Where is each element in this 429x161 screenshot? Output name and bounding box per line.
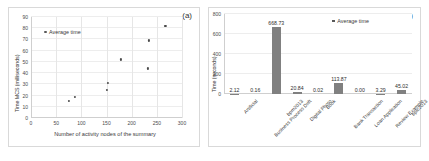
bar-slot: 668.73: [266, 14, 287, 94]
scatter-point: [68, 100, 70, 102]
gridline-vertical: [81, 17, 82, 118]
scatter-point: [74, 96, 76, 98]
y-tick-label: 50: [19, 59, 28, 65]
y-tick-label: 0: [211, 91, 221, 97]
y-tick-label: 80: [19, 25, 28, 31]
panel-a-legend-label: Average time: [49, 29, 81, 35]
bar: [272, 27, 281, 94]
bar-value-label: 45.02: [395, 83, 408, 89]
gridline-vertical: [157, 17, 158, 118]
x-tick-label: 250: [153, 120, 161, 126]
bar-slot: 113.87: [328, 14, 349, 94]
x-tick-label: 0: [30, 120, 33, 126]
x-tick-label: 200: [127, 120, 135, 126]
y-tick-label: 800: [211, 11, 221, 17]
gridline-vertical: [182, 17, 183, 118]
bar-slot: 3.29: [370, 14, 391, 94]
bar-slot: 45.02: [391, 14, 412, 94]
bar-slot: 0.00: [349, 14, 370, 94]
bar-value-label: 0.00: [355, 87, 365, 93]
scatter-point: [148, 39, 150, 41]
y-tick-label: 40: [19, 70, 28, 76]
y-axis-line: [31, 17, 32, 118]
bar-value-label: 20.84: [291, 85, 304, 91]
y-tick-label: 200: [211, 71, 221, 77]
gridline-vertical: [107, 17, 108, 118]
legend-marker-icon: [332, 20, 335, 23]
bar: [293, 92, 302, 94]
y-tick-label: 10: [19, 104, 28, 110]
x-tick-label: 50: [53, 120, 59, 126]
bar-slot: 2.12: [224, 14, 245, 94]
y-tick-label: 0: [19, 115, 28, 121]
panel-a-legend: Average time: [44, 29, 81, 35]
panel-a-x-axis-title: Number of activity nodes of the summary: [30, 131, 180, 137]
chart-panel-a: (a) Time MCS (milliseconds) Number of ac…: [0, 0, 206, 161]
panel-b-legend: Average time: [332, 18, 369, 24]
panel-b-legend-label: Average time: [337, 18, 369, 24]
scatter-point: [147, 68, 149, 70]
gridline-vertical: [132, 17, 133, 118]
bar-value-label: 0.02: [313, 87, 323, 93]
y-tick-label: 400: [211, 51, 221, 57]
bar-slot: 20.84: [287, 14, 308, 94]
y-tick-label: 70: [19, 36, 28, 42]
panel-b-bars: 2.120.16668.7320.840.02113.870.003.2945.…: [224, 14, 412, 94]
panel-a-tag: (a): [182, 11, 192, 20]
y-tick-label: 30: [19, 81, 28, 87]
bar-value-label: 2.12: [229, 87, 239, 93]
bar-value-label: 3.29: [376, 87, 386, 93]
x-tick-label: 300: [178, 120, 186, 126]
bar-slot: 0.02: [308, 14, 329, 94]
bar-value-label: 113.87: [331, 76, 346, 82]
category-label: Artificial: [242, 98, 259, 115]
x-tick-label: 100: [77, 120, 85, 126]
legend-marker-icon: [44, 31, 47, 34]
bar-value-label: 0.16: [250, 87, 260, 93]
bar: [334, 83, 343, 94]
bar-value-label: 668.73: [268, 20, 284, 26]
chart-panel-b: (b) Time (seconds) 0200400600800 2.120.1…: [206, 0, 429, 161]
x-axis-line: [31, 117, 182, 118]
bar-slot: 0.16: [245, 14, 266, 94]
y-tick-label: 20: [19, 93, 28, 99]
figure-container: (a) Time MCS (milliseconds) Number of ac…: [0, 0, 429, 161]
y-tick-label: 90: [19, 14, 28, 20]
y-tick-label: 60: [19, 48, 28, 54]
bar: [397, 90, 406, 95]
y-tick-label: 600: [211, 31, 221, 37]
x-tick-label: 150: [102, 120, 110, 126]
panel-b-category-labels: ArtificialBusiness Process Driftbpm2013D…: [224, 96, 412, 156]
